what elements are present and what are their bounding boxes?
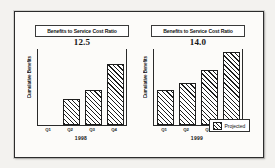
bar-cell [176,49,198,125]
chart-title-1: Benefits to Service Cost Ratio [36,26,128,36]
bar-q3 [201,70,218,125]
bar-cell [104,49,126,125]
bar-q2 [63,99,80,125]
chart-ratio-value-2: 14.0 [151,37,245,47]
x-tick-q2: Q2 [175,127,197,132]
bar-chart-1998: Benefits to Service Cost Ratio 12.5 Cumu… [27,18,131,151]
bar-cell [82,49,104,125]
legend: Projected [209,119,250,132]
legend-label-projected: Projected [225,123,246,129]
figure-page: Benefits to Service Cost Ratio 12.5 Cumu… [0,0,275,168]
x-tick-q4: Q4 [103,127,125,132]
bar-q3 [85,90,102,125]
x-tick-q2: Q2 [59,127,81,132]
chart-title-box-1: Benefits to Service Cost Ratio [35,25,129,37]
chart-title-2: Benefits to Service Cost Ratio [152,26,244,36]
x-tick-q1: Q1 [153,127,175,132]
bar-cell [60,49,82,125]
bar-cell [220,49,242,125]
bar-cell [198,49,220,125]
chart-title-box-2: Benefits to Service Cost Ratio [151,25,245,37]
bar-group-1 [38,49,126,125]
plot-area-1 [37,49,127,126]
chart-ratio-value-1: 12.5 [35,37,129,47]
bar-q2 [179,83,196,125]
x-axis-label-2: 1999 [153,135,241,141]
bar-q4 [223,52,240,125]
legend-swatch-projected [213,122,222,130]
bar-group-2 [154,49,242,125]
bar-q1 [157,90,174,125]
x-tick-q3: Q3 [81,127,103,132]
y-axis-label-1: Cumulative Benefits [27,56,32,98]
bar-cell [154,49,176,125]
x-axis-tick-labels-1: Q1 Q2 Q3 Q4 [37,127,125,132]
y-axis-label-2: Cumulative Benefits [143,56,148,98]
figure-frame: Benefits to Service Cost Ratio 12.5 Cumu… [14,11,264,158]
bar-cell [38,49,60,125]
x-tick-q1: Q1 [37,127,59,132]
plot-area-2 [153,49,243,126]
bar-q4 [107,64,124,125]
x-axis-label-1: 1998 [37,135,125,141]
